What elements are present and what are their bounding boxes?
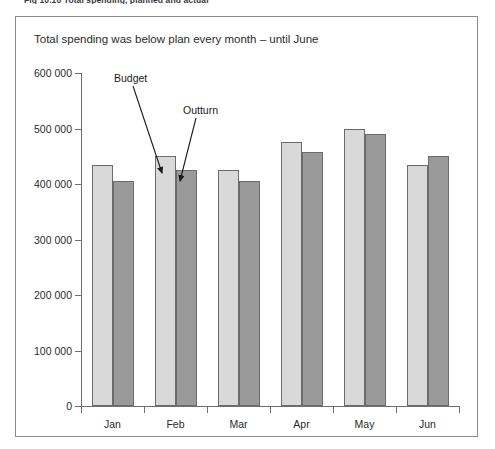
y-axis-tick xyxy=(75,184,81,185)
budget-annotation-label: Budget xyxy=(114,72,147,84)
bar-jan-outturn xyxy=(113,181,134,406)
x-axis-label-may: May xyxy=(355,418,375,430)
x-axis-label-mar: Mar xyxy=(229,418,247,430)
plot-area: 0100 000200 000300 000400 000500 000600 … xyxy=(81,73,459,406)
y-axis-tick-label: 300 000 xyxy=(34,234,72,246)
x-axis-tick xyxy=(459,407,460,413)
x-axis-tick xyxy=(207,407,208,413)
chart-title: Total spending was below plan every mont… xyxy=(34,33,318,45)
bar-mar-outturn xyxy=(239,181,260,406)
bar-jan-budget xyxy=(92,165,113,406)
y-axis-tick-label: 100 000 xyxy=(34,345,72,357)
bar-apr-budget xyxy=(281,142,302,406)
x-axis-tick xyxy=(144,407,145,413)
x-axis-label-feb: Feb xyxy=(166,418,184,430)
x-axis-label-apr: Apr xyxy=(293,418,309,430)
bar-may-outturn xyxy=(365,134,386,406)
y-axis-tick xyxy=(75,240,81,241)
outturn-annotation-label: Outturn xyxy=(183,104,218,116)
chart-panel: Total spending was below plan every mont… xyxy=(15,16,478,437)
y-axis-tick-label: 400 000 xyxy=(34,178,72,190)
y-axis-tick xyxy=(75,295,81,296)
x-axis-tick xyxy=(81,407,82,413)
bar-feb-outturn xyxy=(176,170,197,406)
x-axis-tick xyxy=(396,407,397,413)
x-axis-tick xyxy=(333,407,334,413)
y-axis-tick xyxy=(75,73,81,74)
x-axis-label-jan: Jan xyxy=(104,418,121,430)
bar-jun-outturn xyxy=(428,156,449,406)
y-axis-tick-label: 600 000 xyxy=(34,67,72,79)
x-axis-tick xyxy=(270,407,271,413)
y-axis-line xyxy=(81,73,82,407)
bar-mar-budget xyxy=(218,170,239,406)
y-axis-tick xyxy=(75,351,81,352)
bar-may-budget xyxy=(344,129,365,407)
y-axis-tick-label: 500 000 xyxy=(34,123,72,135)
y-axis-tick-label: 200 000 xyxy=(34,289,72,301)
x-axis-label-jun: Jun xyxy=(419,418,436,430)
bar-apr-outturn xyxy=(302,152,323,406)
figure-caption: Fig 10.10 Total spending, planned and ac… xyxy=(24,0,209,4)
bar-jun-budget xyxy=(407,165,428,406)
bar-feb-budget xyxy=(155,156,176,406)
y-axis-tick-label: 0 xyxy=(66,400,72,412)
y-axis-tick xyxy=(75,129,81,130)
